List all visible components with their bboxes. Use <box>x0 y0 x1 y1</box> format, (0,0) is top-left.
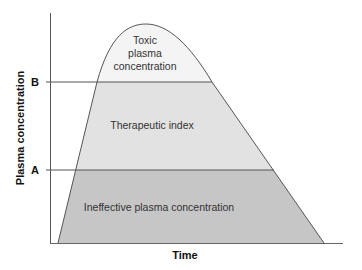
toxic-region <box>50 10 350 82</box>
threshold-label-a: A <box>31 164 39 176</box>
ineffective-label: Ineffective plasma concentration <box>84 201 235 213</box>
threshold-label-b: B <box>31 76 39 88</box>
therapeutic-region <box>50 82 350 170</box>
therapeutic-label: Therapeutic index <box>110 119 194 131</box>
y-axis-label: Plasma concentration <box>14 71 26 186</box>
x-axis-label: Time <box>172 249 197 261</box>
toxic-label-line-2: plasma <box>128 47 162 59</box>
toxic-label-line-1: Toxic <box>133 34 157 46</box>
toxic-label-line-3: concentration <box>113 60 176 72</box>
diagram-canvas: B A Time Plasma concentration Toxic plas… <box>0 0 362 270</box>
